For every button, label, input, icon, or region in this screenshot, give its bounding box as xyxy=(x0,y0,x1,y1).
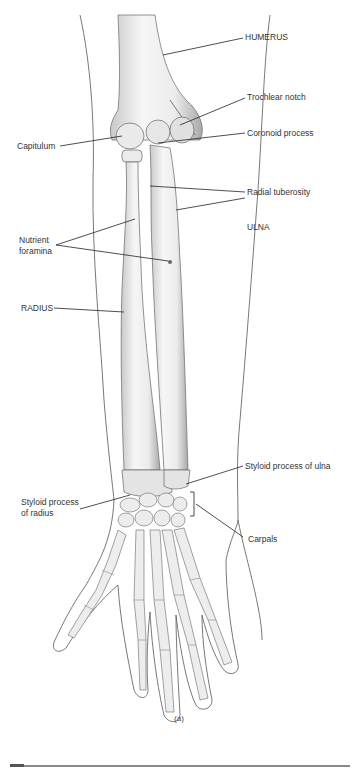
label-styloid-process-ulna: Styloid process of ulna xyxy=(245,461,331,472)
figure-caption: (a) xyxy=(0,714,358,723)
label-carpals: Carpals xyxy=(248,534,277,545)
label-trochlear-notch: Trochlear notch xyxy=(247,92,306,103)
label-humerus: HUMERUS xyxy=(245,32,288,43)
label-capitulum: Capitulum xyxy=(17,141,55,152)
carpal-bones xyxy=(118,493,187,527)
label-coronoid-process: Coronoid process xyxy=(247,128,314,139)
label-radial-tuberosity: Radial tuberosity xyxy=(247,187,310,198)
label-nutrient-foramina-2: foramina xyxy=(19,246,52,257)
label-nutrient-foramina-1: Nutrient xyxy=(19,235,49,246)
label-styloid-process-radius-1: Styloid process xyxy=(21,497,79,508)
label-ulna: ULNA xyxy=(247,222,270,233)
bottom-divider-accent xyxy=(10,764,24,767)
label-radius: RADIUS xyxy=(21,303,53,314)
forearm-hand-skeleton-illustration xyxy=(0,0,358,774)
bottom-divider xyxy=(10,765,350,767)
hand-bones xyxy=(68,528,232,712)
label-styloid-process-radius-2: of radius xyxy=(21,508,54,519)
